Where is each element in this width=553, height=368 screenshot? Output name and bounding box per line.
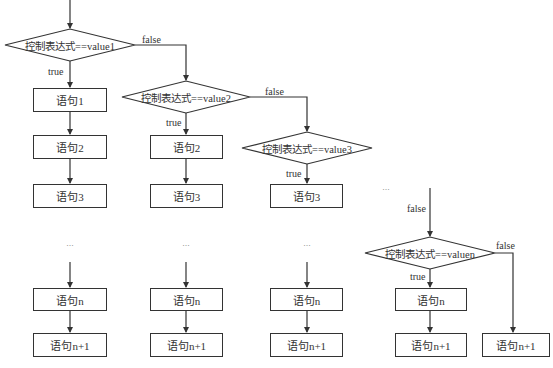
condition-text: 控制表达式==: [25, 41, 87, 52]
false-label-n-in: false: [407, 203, 426, 214]
statement-box: 语句3: [33, 184, 107, 208]
statement-box: 语句2: [33, 135, 107, 159]
statement-n1-box: 语句n+1: [33, 333, 107, 357]
statement-n-box: 语句n: [270, 288, 343, 311]
true-label-2: true: [166, 117, 182, 128]
condition-diamond-1: 控制表达式==value1: [25, 38, 115, 53]
statement-box: 语句3: [270, 184, 343, 208]
statement-n1-label: 语句n+1: [167, 337, 206, 353]
true-label-n: true: [410, 271, 426, 282]
statement-box: 语句1: [33, 88, 107, 112]
statement-n1-label: 语句n+1: [287, 337, 326, 353]
statement-n-box: 语句n: [150, 288, 223, 311]
condition-text: 控制表达式==: [262, 144, 324, 155]
default-statement-label: 语句n+1: [496, 337, 535, 353]
condition-text: 控制表达式==: [141, 93, 203, 104]
condition-value: value3: [324, 144, 352, 155]
ellipsis: ...: [182, 238, 190, 248]
condition-diamond-3: 控制表达式==value3: [262, 141, 352, 156]
true-label-3: true: [286, 168, 302, 179]
statement-n-label: 语句n: [293, 292, 321, 308]
false-label-2: false: [265, 86, 284, 97]
false-label-1: false: [142, 34, 161, 45]
false-label-n: false: [496, 240, 515, 251]
statement-n1-box: 语句n+1: [395, 333, 467, 357]
statement-n1-label: 语句n+1: [50, 337, 89, 353]
condition-value: valuen: [447, 249, 475, 260]
statement-n-box: 语句n: [395, 288, 467, 311]
true-label-1: true: [48, 66, 64, 77]
statement-n1-label: 语句n+1: [411, 337, 450, 353]
statement-n1-box: 语句n+1: [270, 333, 343, 357]
condition-text: 控制表达式==: [385, 249, 447, 260]
statement-n1-box: 语句n+1: [150, 333, 223, 357]
statement-n-box: 语句n: [33, 288, 107, 311]
condition-diamond-n: 控制表达式==valuen: [385, 246, 475, 261]
condition-diamond-2: 控制表达式==value2: [141, 90, 231, 105]
statement-box: 语句2: [150, 135, 223, 159]
statement-n-label: 语句n: [56, 292, 84, 308]
statement-n-label: 语句n: [417, 292, 445, 308]
default-statement-box: 语句n+1: [482, 333, 550, 357]
ellipsis: ...: [303, 238, 311, 248]
ellipsis: ...: [382, 182, 390, 192]
condition-value: value2: [203, 93, 231, 104]
statement-n-label: 语句n: [173, 292, 201, 308]
ellipsis: ...: [66, 238, 74, 248]
condition-value: value1: [87, 41, 115, 52]
statement-box: 语句3: [150, 184, 223, 208]
